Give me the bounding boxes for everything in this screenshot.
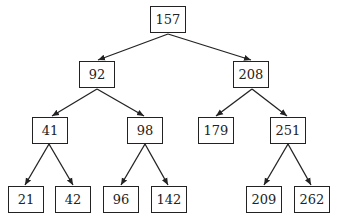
edge-92-41 [52,89,97,116]
edge-41-42 [49,144,73,185]
edge-157-92 [98,34,168,60]
tree-node-179: 179 [198,117,234,144]
tree-node-262: 262 [294,186,330,213]
tree-diagram: 157 92 208 41 98 179 251 21 42 96 142 20… [0,0,338,222]
edge-208-179 [216,89,252,116]
edge-251-209 [264,144,288,185]
tree-node-42: 42 [55,186,91,213]
tree-node-209: 209 [246,186,282,213]
edge-157-208 [168,34,251,60]
edge-98-96 [121,144,145,185]
edge-251-262 [288,144,311,185]
tree-node-92: 92 [79,61,115,88]
tree-node-96: 96 [103,186,139,213]
tree-node-41: 41 [32,117,68,144]
tree-node-157: 157 [150,6,186,33]
tree-node-251: 251 [270,117,306,144]
tree-node-208: 208 [233,61,269,88]
edge-208-251 [252,89,287,116]
tree-node-142: 142 [151,186,187,213]
edge-41-21 [25,144,49,185]
edge-92-98 [97,89,144,116]
tree-node-98: 98 [127,117,163,144]
edge-98-142 [145,144,168,185]
tree-node-21: 21 [8,186,44,213]
